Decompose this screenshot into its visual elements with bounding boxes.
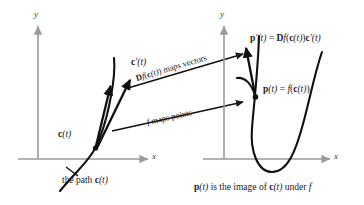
right-tangent-carg: (t)	[293, 33, 302, 43]
left-point-label: c(t)	[58, 130, 71, 140]
left-caption: the path c(t)	[62, 176, 108, 186]
right-tangent-f: f	[283, 33, 286, 43]
left-tangent-vector-on-curve	[96, 86, 111, 148]
right-point-label: p(t) = f(c(t))	[263, 85, 310, 95]
left-x-axis-label: x	[152, 152, 156, 161]
right-tangent-parg: ′(t)	[255, 33, 266, 43]
right-tangent-label: p′(t) = Df(c(t))c′(t)	[250, 34, 321, 44]
right-caption-carg: (t)	[273, 182, 282, 192]
right-caption: p(t) is the image of c(t) under f	[194, 183, 311, 193]
right-curve-path	[252, 36, 322, 172]
right-tangent-carg2: ′(t)	[310, 33, 321, 43]
left-point-label-arg: (t)	[62, 129, 71, 139]
right-point-parg: (t)	[268, 84, 277, 94]
right-caption-parg: (t)	[199, 182, 208, 192]
left-tangent-label-arg: ′(t)	[135, 57, 146, 67]
diagram-svg	[0, 0, 364, 205]
right-point-carg: (t)	[297, 84, 306, 94]
left-y-axis-label: y	[34, 10, 38, 19]
figure-canvas: y x y x c(t) c′(t) Df(c(t)) maps vectors…	[0, 0, 364, 205]
left-axes	[18, 26, 148, 159]
left-tangent-vector-labeled	[97, 80, 130, 148]
left-curve-path	[60, 58, 114, 191]
right-y-axis-label: y	[220, 10, 224, 19]
left-tangent-label: c′(t)	[131, 58, 146, 68]
right-x-axis-label: x	[334, 152, 338, 161]
right-caption-f: f	[309, 182, 312, 192]
right-tangent-vector	[246, 48, 256, 97]
left-caption-arg: (t)	[99, 175, 108, 185]
right-point-f: f	[287, 84, 290, 94]
